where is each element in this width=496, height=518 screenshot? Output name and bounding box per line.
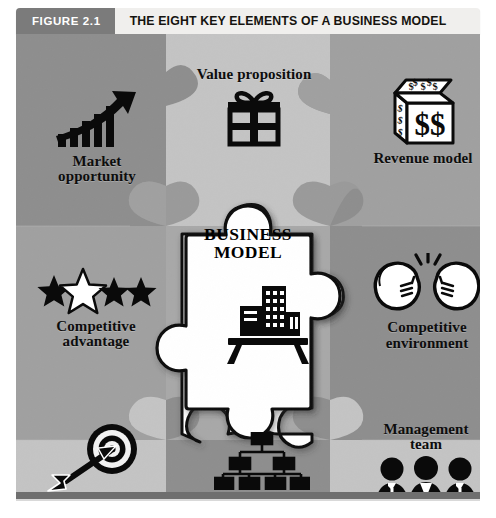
money-cube-icon: $ $ $ $ $ $ $ $ $$ xyxy=(385,75,461,147)
element-competitive-advantage[interactable]: Competitive advantage xyxy=(20,252,172,364)
element-revenue-model[interactable]: $ $ $ $ $ $ $ $ $$ Revenue model xyxy=(352,58,480,184)
boxing-gloves-clash-icon xyxy=(371,253,480,319)
element-management-team[interactable]: Management team xyxy=(354,404,480,492)
figure-header: FIGURE 2.1 THE EIGHT KEY ELEMENTS OF A B… xyxy=(16,8,480,34)
rising-bar-chart-arrow-icon xyxy=(54,88,140,150)
figure-baseline-shadow xyxy=(16,499,480,501)
element-label: Value proposition xyxy=(197,67,312,82)
figure-number-badge: FIGURE 2.1 xyxy=(16,8,115,34)
four-stars-icon xyxy=(35,267,157,315)
puzzle-diagram: BUSINESS MODEL xyxy=(16,34,480,492)
element-label: Management team xyxy=(383,422,468,453)
cube-front-text: $$ xyxy=(415,107,446,142)
element-label: Market opportunity xyxy=(58,154,136,185)
gift-box-icon xyxy=(223,85,285,147)
element-label: Revenue model xyxy=(373,151,472,166)
svg-text:$: $ xyxy=(426,77,432,89)
element-market-opportunity[interactable]: Market opportunity xyxy=(22,76,172,196)
target-with-arrow-icon xyxy=(46,421,154,492)
figure-title: THE EIGHT KEY ELEMENTS OF A BUSINESS MOD… xyxy=(115,8,480,34)
org-chart-hierarchy-icon xyxy=(214,432,310,490)
element-label: Competitive environment xyxy=(386,320,469,351)
three-business-people-icon xyxy=(375,456,477,492)
figure-container: FIGURE 2.1 THE EIGHT KEY ELEMENTS OF A B… xyxy=(0,0,496,518)
center-label: BUSINESS MODEL xyxy=(158,226,338,261)
office-building-on-table-icon xyxy=(222,278,314,364)
element-value-proposition[interactable]: Value proposition xyxy=(174,46,334,168)
element-label: Competitive advantage xyxy=(56,319,135,350)
figure-baseline-bar xyxy=(16,492,480,499)
element-market-strategy[interactable]: Market strategy xyxy=(22,406,178,492)
element-organizational-development[interactable]: Organizational development xyxy=(182,422,342,492)
svg-text:$: $ xyxy=(412,77,418,89)
element-competitive-environment[interactable]: Competitive environment xyxy=(356,236,480,368)
